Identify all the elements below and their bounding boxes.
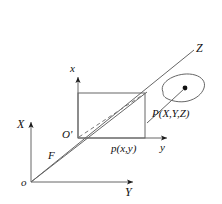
image-origin-label: O' xyxy=(62,129,72,140)
world-y-axis-label: Y xyxy=(125,186,132,198)
optical-axis-ray xyxy=(31,92,147,182)
perspective-projection-figure: X Y Z x y o O' F p(x,y) P(X,Y,Z) xyxy=(0,0,222,204)
image-diagonal-dashed-line xyxy=(79,94,144,137)
image-point-label: p(x,y) xyxy=(111,143,136,154)
world-x-axis-label: X xyxy=(17,118,24,130)
diagram-canvas xyxy=(0,0,222,204)
world-z-axis-label: Z xyxy=(196,42,203,54)
camera-center-label: o xyxy=(21,177,27,188)
image-x-axis-label: x xyxy=(70,63,75,74)
focal-length-label: F xyxy=(48,150,55,161)
projection-rays xyxy=(31,92,147,182)
image-y-axis-label: y xyxy=(160,142,165,153)
world-point-label: P(X,Y,Z) xyxy=(152,108,190,119)
